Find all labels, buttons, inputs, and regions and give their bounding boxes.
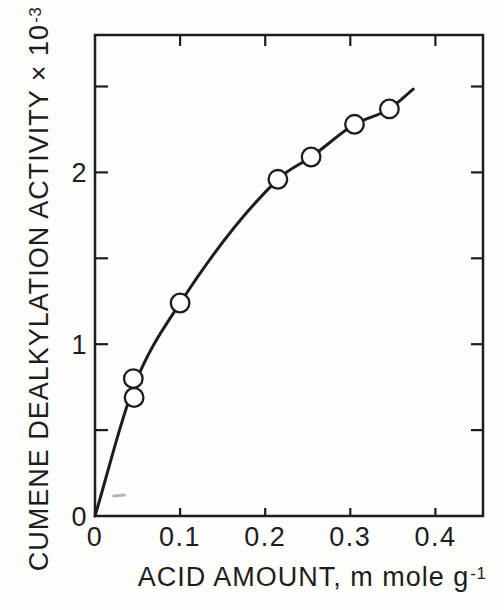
- data-point: [302, 148, 321, 167]
- y-axis-title-superscript: -3: [26, 7, 45, 23]
- fit-curve: [95, 89, 413, 516]
- x-axis-title-text: ACID AMOUNT, m mole g: [138, 562, 470, 592]
- x-tick-label: 0.4: [414, 522, 456, 552]
- y-axis-title-text: CUMENE DEALKYLATION ACTIVITY × 10: [24, 24, 54, 571]
- x-axis-title-superscript: -1: [470, 564, 486, 583]
- x-tick-label: 0: [87, 522, 104, 552]
- x-axis-title: ACID AMOUNT, m mole g-1: [138, 563, 487, 593]
- data-point: [171, 294, 190, 313]
- plot-frame: [95, 35, 483, 516]
- x-tick-label: 0.2: [244, 522, 286, 552]
- y-tick-label: 2: [71, 158, 88, 188]
- y-axis-title: CUMENE DEALKYLATION ACTIVITY × 10-3: [25, 7, 55, 572]
- y-tick-label: 1: [71, 330, 88, 360]
- data-point: [125, 388, 144, 407]
- x-tick-label: 0.1: [159, 522, 201, 552]
- data-point: [124, 369, 143, 388]
- y-tick-label: 0: [71, 502, 88, 532]
- figure: 00.10.20.30.4012 CUMENE DEALKYLATION ACT…: [0, 0, 504, 610]
- data-point: [269, 170, 288, 189]
- data-point: [380, 100, 399, 119]
- x-tick-label: 0.3: [329, 522, 371, 552]
- data-point: [345, 115, 364, 134]
- chart-canvas: 00.10.20.30.4012: [0, 0, 504, 610]
